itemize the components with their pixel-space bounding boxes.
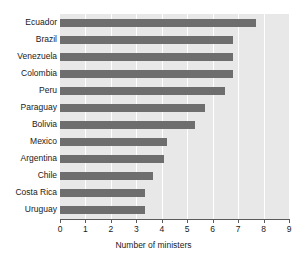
- bar-row: [60, 117, 289, 134]
- x-axis-tick: [136, 219, 137, 223]
- bar: [60, 189, 145, 197]
- category-axis-labels: EcuadorBrazilVenezuelaColombiaPeruParagu…: [0, 14, 57, 219]
- x-axis-tick: [264, 219, 265, 223]
- category-label-bolivia: Bolivia: [0, 120, 57, 129]
- bar-row: [60, 168, 289, 185]
- chart-title: [0, 0, 307, 5]
- category-label-venezuela: Venezuela: [0, 52, 57, 61]
- bar: [60, 53, 233, 61]
- category-label-brazil: Brazil: [0, 35, 57, 44]
- bar-row: [60, 14, 289, 31]
- category-label-chile: Chile: [0, 171, 57, 180]
- x-axis-tick: [289, 219, 290, 223]
- x-axis-tick-label: 5: [177, 224, 197, 234]
- bar-row: [60, 82, 289, 99]
- bar-row: [60, 151, 289, 168]
- x-axis-tick: [187, 219, 188, 223]
- bar: [60, 138, 167, 146]
- x-axis-tick-label: 6: [203, 224, 223, 234]
- x-axis-line: [60, 219, 289, 220]
- bar: [60, 70, 233, 78]
- category-label-mexico: Mexico: [0, 137, 57, 146]
- category-label-ecuador: Ecuador: [0, 18, 57, 27]
- category-label-paraguay: Paraguay: [0, 103, 57, 112]
- x-axis-tick: [60, 219, 61, 223]
- bar-row: [60, 134, 289, 151]
- x-axis-tick-label: 7: [228, 224, 248, 234]
- x-axis-tick-label: 0: [50, 224, 70, 234]
- x-axis-tick-label: 4: [152, 224, 172, 234]
- bar-row: [60, 99, 289, 116]
- category-label-peru: Peru: [0, 86, 57, 95]
- category-label-colombia: Colombia: [0, 69, 57, 78]
- bar-row: [60, 185, 289, 202]
- bar-row: [60, 48, 289, 65]
- category-label-argentina: Argentina: [0, 154, 57, 163]
- bar: [60, 19, 256, 27]
- bar-row: [60, 202, 289, 219]
- x-axis-tick: [111, 219, 112, 223]
- plot-area: [60, 14, 289, 219]
- bar-row: [60, 65, 289, 82]
- x-axis-tick: [238, 219, 239, 223]
- x-axis-tick: [213, 219, 214, 223]
- bar: [60, 36, 233, 44]
- x-axis-tick: [85, 219, 86, 223]
- category-label-costa-rica: Costa Rica: [0, 188, 57, 197]
- bar: [60, 121, 195, 129]
- x-axis-title: Number of ministers: [0, 240, 307, 250]
- bar: [60, 87, 225, 95]
- bar: [60, 155, 164, 163]
- x-axis-tick-label: 3: [126, 224, 146, 234]
- bar: [60, 172, 153, 180]
- x-axis-tick-label: 8: [254, 224, 274, 234]
- x-axis-tick-label: 2: [101, 224, 121, 234]
- x-axis-tick: [162, 219, 163, 223]
- x-axis-tick-label: 9: [279, 224, 299, 234]
- bar-row: [60, 31, 289, 48]
- bar: [60, 206, 145, 214]
- bar-chart-figure: EcuadorBrazilVenezuelaColombiaPeruParagu…: [0, 0, 307, 262]
- category-label-uruguay: Uruguay: [0, 205, 57, 214]
- bar: [60, 104, 205, 112]
- x-axis-tick-label: 1: [75, 224, 95, 234]
